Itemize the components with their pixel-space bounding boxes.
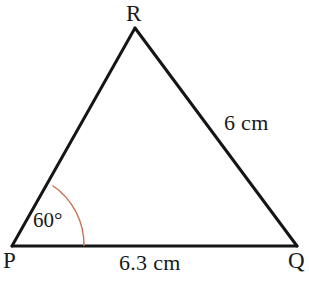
vertex-label-r: R xyxy=(126,2,141,25)
vertex-label-p: P xyxy=(3,249,16,272)
angle-measure-label-p: 60° xyxy=(33,210,62,231)
side-length-label-pq: 6.3 cm xyxy=(119,252,181,274)
geometry-figure: R P Q 6 cm 6.3 cm 60° xyxy=(0,0,309,289)
vertex-label-q: Q xyxy=(288,249,305,272)
triangle-diagram-canvas xyxy=(0,0,309,289)
side-length-label-rq: 6 cm xyxy=(224,112,269,134)
